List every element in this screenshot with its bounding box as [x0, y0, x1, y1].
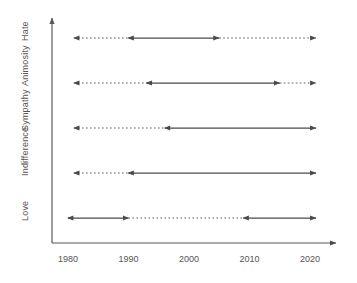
y-axis-label-love: Love [21, 201, 30, 221]
timeline-chart: LoveIndifferenceSympathyAnimosityHate 19… [0, 0, 357, 283]
y-axis-label-sympathy: Sympathy [21, 89, 30, 131]
plot-area [0, 0, 357, 283]
series-layer [68, 38, 316, 218]
y-axis-label-animosity: Animosity [21, 45, 30, 86]
x-tick-1990: 1990 [118, 255, 138, 264]
y-axis-label-hate: Hate [21, 21, 30, 41]
axes [52, 18, 336, 243]
x-tick-2020: 2020 [300, 255, 320, 264]
x-tick-1980: 1980 [58, 255, 78, 264]
x-tick-2000: 2000 [179, 255, 199, 264]
y-axis-label-indifference: Indifference [21, 127, 30, 176]
x-tick-2010: 2010 [239, 255, 259, 264]
